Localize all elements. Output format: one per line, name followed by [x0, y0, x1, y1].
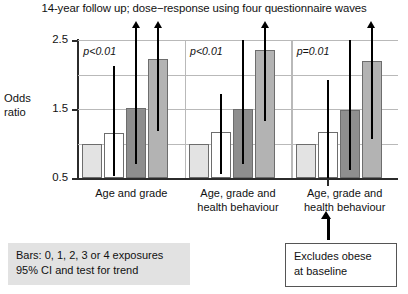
x-axis-line: [77, 178, 398, 180]
p-value-label: p<0.01: [190, 45, 223, 57]
legend-line-bars: Bars: 0, 1, 2, 3 or 4 exposures: [16, 248, 190, 263]
confidence-interval-bar: [264, 28, 266, 121]
bar-group: p<0.01: [78, 40, 185, 178]
x-axis-category-line: health behaviour: [291, 200, 398, 214]
y-axis-tick-mark: [72, 40, 78, 42]
x-axis-category-line: Age, grade and: [185, 186, 292, 200]
group-separator: [185, 40, 186, 178]
confidence-interval-bar: [242, 40, 244, 164]
group3-axis-stub: [327, 178, 329, 186]
y-axis-tick-label: 1.5: [38, 102, 68, 114]
confidence-interval-arrow-icon: [367, 21, 375, 28]
plot-area: p<0.01p<0.01p=0.01: [78, 40, 398, 178]
legend-box: Bars: 0, 1, 2, 3 or 4 exposures 95% CI a…: [8, 243, 190, 285]
x-axis-category-line: Age, grade and: [291, 186, 398, 200]
y-axis-tick-mark: [72, 178, 78, 180]
confidence-interval-arrow-icon: [261, 21, 269, 28]
p-value-label: p=0.01: [297, 45, 330, 57]
bar-group: p<0.01: [185, 40, 292, 178]
chart-figure: 14-year follow up; dose−response using f…: [0, 0, 408, 294]
bar: [189, 144, 209, 179]
chart-title: 14-year follow up; dose−response using f…: [0, 2, 408, 14]
x-axis-category-label: Age and grade: [78, 186, 185, 200]
legend-line-ci: 95% CI and test for trend: [16, 263, 190, 278]
x-axis-category-line: Age and grade: [78, 186, 185, 200]
bar-group: p=0.01: [291, 40, 398, 178]
p-value-label: p<0.01: [83, 45, 116, 57]
confidence-interval-bar: [113, 66, 115, 176]
confidence-interval-arrow-icon: [132, 21, 140, 28]
group-separator: [291, 40, 292, 178]
annotation-line2: at baseline: [294, 264, 396, 279]
y-axis-tick-mark: [72, 109, 78, 111]
confidence-interval-arrow-icon: [154, 21, 162, 28]
confidence-interval-bar: [349, 40, 351, 170]
bar: [296, 144, 316, 179]
x-axis-category-line: health behaviour: [185, 200, 292, 214]
confidence-interval-bar: [135, 28, 137, 164]
confidence-interval-bar: [157, 28, 159, 131]
y-axis-tick-label: 2.5: [38, 33, 68, 45]
y-axis-tick-label: 0.5: [38, 171, 68, 183]
x-axis-category-label: Age, grade andhealth behaviour: [185, 186, 292, 214]
confidence-interval-bar: [327, 80, 329, 178]
confidence-interval-bar: [220, 94, 222, 174]
x-axis-category-label: Age, grade andhealth behaviour: [291, 186, 398, 214]
annotation-line1: Excludes obese: [294, 249, 396, 264]
confidence-interval-bar: [371, 28, 373, 139]
bar: [82, 144, 102, 179]
annotation-box: Excludes obese at baseline: [285, 243, 397, 287]
note-leader-line: [327, 218, 330, 240]
